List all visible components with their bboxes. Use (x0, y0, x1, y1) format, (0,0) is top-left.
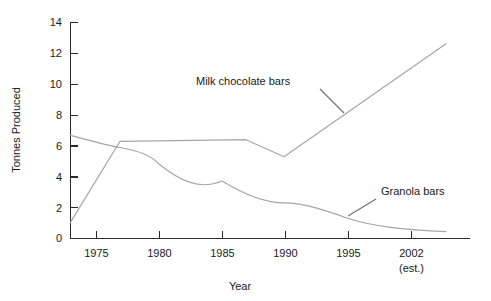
y-tick-label-8: 8 (56, 109, 62, 121)
x-tick-label-1975: 1975 (84, 247, 108, 259)
x-axis-ticks (97, 231, 412, 239)
y-tick-label-12: 12 (50, 47, 62, 59)
annotation-label-granola-bars: Granola bars (381, 185, 445, 197)
line-chart: 14 12 10 8 6 4 2 0 Tonnes Produced 1975 … (0, 0, 491, 301)
y-tick-label-6: 6 (56, 140, 62, 152)
y-axis-title: Tonnes Produced (10, 87, 22, 173)
annotation-leader-granola-bars (348, 199, 376, 216)
y-tick-label-0: 0 (56, 232, 62, 244)
y-tick-label-14: 14 (50, 16, 62, 28)
x-tick-label-1985: 1985 (210, 247, 234, 259)
x-axis-title: Year (229, 280, 252, 292)
x-tick-label-1995: 1995 (336, 247, 360, 259)
y-axis-ticks (71, 23, 79, 239)
x-tick-label-1990: 1990 (273, 247, 297, 259)
x-tick-label-1980: 1980 (147, 247, 171, 259)
y-tick-label-10: 10 (50, 78, 62, 90)
series-line-granola-bars (70, 135, 446, 232)
y-tick-label-4: 4 (56, 171, 62, 183)
chart-screenshot: 14 12 10 8 6 4 2 0 Tonnes Produced 1975 … (0, 0, 491, 301)
annotation-label-milk-chocolate-bars: Milk chocolate bars (196, 75, 291, 87)
x-tick-label-2002: 2002 (399, 247, 423, 259)
annotation-leader-milk-chocolate-bars (320, 89, 344, 113)
y-tick-label-2: 2 (56, 202, 62, 214)
x-tick-sublabel-est: (est.) (399, 262, 424, 274)
